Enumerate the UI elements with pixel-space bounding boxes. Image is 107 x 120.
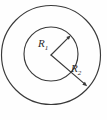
outer-radius-label-subscript: 2 [78,69,82,77]
inner-circle [24,27,78,81]
inner-radius-label-subscript: 1 [45,44,49,52]
figure-canvas: R1 R2 [0,0,107,120]
inner-radius-line [51,38,68,55]
annulus-figure: R1 R2 [0,0,107,120]
inner-radius-label: R1 [37,37,48,52]
outer-radius-label: R2 [70,62,82,77]
